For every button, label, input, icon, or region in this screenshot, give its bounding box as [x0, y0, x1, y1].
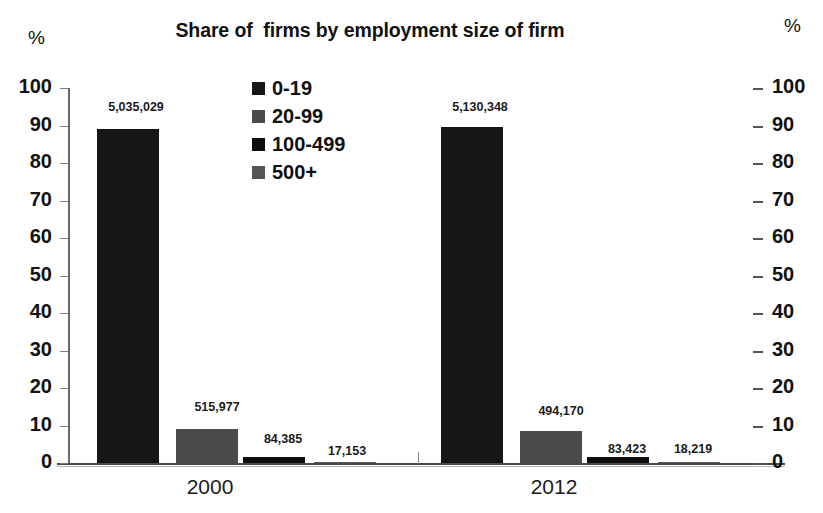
chart-figure: Share of firms by employment size of fir… [0, 0, 823, 513]
plot-area [68, 88, 768, 463]
y-axis-label-right: 80 [772, 150, 820, 173]
category-label-2012: 2012 [494, 475, 614, 499]
legend-label: 100-499 [272, 134, 345, 154]
y-axis-tick-left [60, 426, 68, 427]
y-axis-tick-left [60, 238, 68, 239]
y-axis-label-right: 50 [772, 263, 820, 286]
y-axis-tick-left [60, 201, 68, 202]
bar-value-label: 18,219 [653, 442, 733, 456]
y-axis-label-left: 100 [0, 75, 52, 98]
bar-2012-20-99[interactable] [520, 431, 582, 463]
legend-swatch-icon [252, 138, 265, 151]
bar-2012-100-499[interactable] [587, 457, 649, 463]
y-axis-label-right: 20 [772, 375, 820, 398]
y-axis-tick-left [60, 313, 68, 314]
y-axis-label-right: 40 [772, 300, 820, 323]
y-axis-label-left: 60 [0, 225, 52, 248]
right-axis-unit-label: % [784, 15, 801, 37]
legend-label: 0-19 [272, 78, 312, 98]
y-axis-label-right: 10 [772, 413, 820, 436]
y-axis-label-left: 50 [0, 263, 52, 286]
y-axis-label-right: 90 [772, 113, 820, 136]
y-axis-label-left: 40 [0, 300, 52, 323]
bar-value-label: 17,153 [307, 444, 387, 458]
category-label-2000: 2000 [150, 475, 270, 499]
y-axis-label-left: 70 [0, 188, 52, 211]
bar-2012-0-19[interactable] [441, 127, 503, 463]
y-axis-label-right: 60 [772, 225, 820, 248]
y-axis-tick-left [60, 163, 68, 164]
legend-label: 20-99 [272, 106, 323, 126]
y-axis-label-left: 80 [0, 150, 52, 173]
y-axis-tick-left [60, 463, 68, 464]
legend-item-0-19[interactable]: 0-19 [252, 74, 345, 102]
y-axis-label-right: 70 [772, 188, 820, 211]
y-axis-tick-left [60, 88, 68, 89]
bar-value-label: 5,035,029 [96, 100, 176, 114]
bar-value-label: 494,170 [521, 404, 601, 418]
y-axis-label-left: 10 [0, 413, 52, 436]
y-axis-label-right: 100 [772, 75, 820, 98]
y-axis-tick-left [60, 126, 68, 127]
legend-label: 500+ [272, 162, 317, 182]
x-axis-line-shadow [57, 466, 785, 467]
chart-title: Share of firms by employment size of fir… [110, 19, 630, 42]
y-axis-label-left: 0 [0, 450, 52, 473]
left-axis-unit-label: % [28, 27, 45, 49]
y-axis-label-left: 30 [0, 338, 52, 361]
y-axis-label-left: 20 [0, 375, 52, 398]
legend-item-100-499[interactable]: 100-499 [252, 130, 345, 158]
y-axis-label-left: 90 [0, 113, 52, 136]
bar-2000-100-499[interactable] [243, 457, 305, 463]
bar-2012-500plus[interactable] [658, 462, 720, 463]
bar-value-label: 5,130,348 [440, 100, 520, 114]
bar-2000-20-99[interactable] [176, 429, 238, 463]
bar-2000-0-19[interactable] [97, 129, 159, 463]
y-axis-tick-left [60, 388, 68, 389]
y-axis-tick-left [60, 351, 68, 352]
legend-swatch-icon [252, 82, 265, 95]
legend-swatch-icon [252, 110, 265, 123]
x-axis-line [57, 463, 785, 465]
y-axis-label-right: 0 [772, 450, 820, 473]
y-axis-label-right: 30 [772, 338, 820, 361]
bar-2000-500plus[interactable] [314, 462, 376, 463]
y-axis-tick-left [60, 276, 68, 277]
legend-item-500plus[interactable]: 500+ [252, 158, 345, 186]
legend-swatch-icon [252, 166, 265, 179]
legend-item-20-99[interactable]: 20-99 [252, 102, 345, 130]
y-axis-tick-right [753, 463, 763, 465]
bar-value-label: 515,977 [177, 400, 257, 414]
chart-legend: 0-19 20-99 100-499 500+ [252, 74, 345, 186]
